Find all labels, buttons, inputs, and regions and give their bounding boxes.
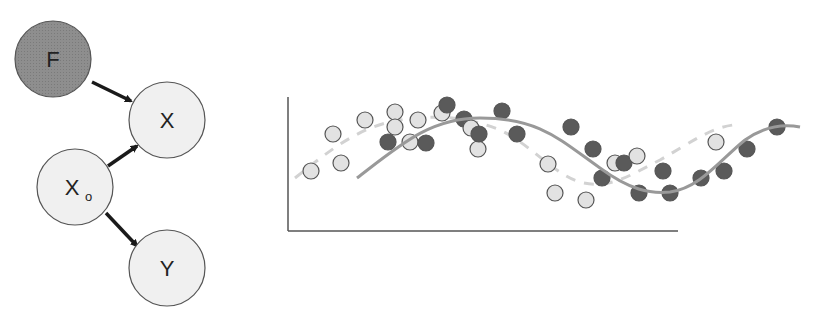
light-data-point: [629, 148, 645, 164]
edge-xo-to-y: [106, 213, 137, 246]
light-data-point: [540, 156, 556, 172]
figure: FXXoY: [0, 0, 822, 318]
dark-data-point: [494, 103, 510, 119]
dark-data-point: [439, 97, 455, 113]
light-data-point: [387, 104, 403, 120]
edge-f-to-x: [92, 82, 131, 101]
node-label: Y: [160, 256, 175, 281]
light-data-point: [357, 112, 373, 128]
node-f: F: [15, 21, 91, 97]
light-data-point: [547, 185, 563, 201]
light-data-point: [410, 112, 426, 128]
node-y: Y: [129, 230, 205, 306]
dark-data-point: [585, 141, 601, 157]
light-data-point: [333, 155, 349, 171]
light-data-point: [303, 163, 319, 179]
node-xo: Xo: [37, 149, 113, 225]
edge-xo-to-x: [108, 146, 137, 166]
node-label: X: [65, 175, 80, 200]
light-data-point: [387, 119, 403, 135]
dark-data-point: [509, 126, 525, 142]
node-subscript: o: [85, 189, 92, 204]
node-label: F: [46, 47, 59, 72]
dark-data-point: [380, 134, 396, 150]
light-data-point: [470, 141, 486, 157]
data-points: [303, 97, 785, 208]
dark-data-point: [563, 119, 579, 135]
light-data-point: [578, 192, 594, 208]
dark-data-point: [655, 163, 671, 179]
dark-data-point: [471, 126, 487, 142]
node-label: X: [160, 108, 175, 133]
scatter-chart: [288, 97, 800, 231]
light-data-point: [325, 126, 341, 142]
node-x: X: [129, 82, 205, 158]
light-data-point: [708, 134, 724, 150]
dark-data-point: [418, 135, 434, 151]
causal-graph: FXXoY: [15, 21, 205, 306]
